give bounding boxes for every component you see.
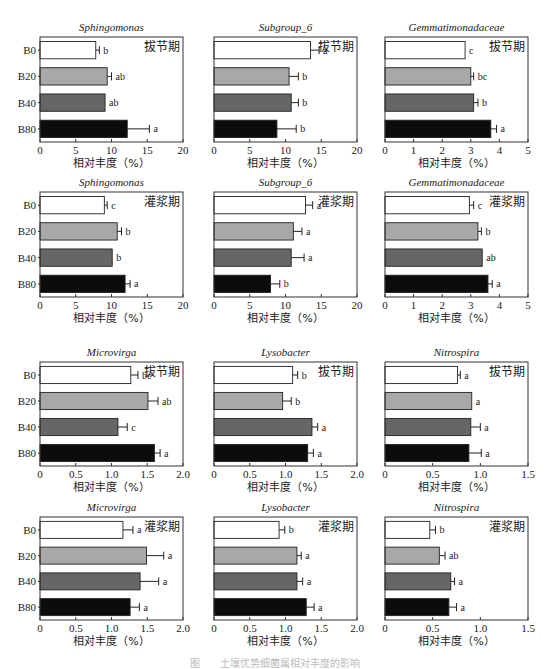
significance-letter: b [302,370,307,381]
category-label: B80 [18,278,37,290]
x-tick-label: 10 [106,144,118,156]
growth-stage-label: 灌浆期 [144,519,180,534]
bar-b20 [385,547,439,564]
bar-b40 [385,418,471,435]
growth-stage-label: 灌浆期 [489,519,525,534]
significance-letter: a [308,252,313,263]
panel-title: Microvirga [86,346,137,358]
panel-title: Nitrospira [433,346,480,358]
growth-stage-label: 拔节期 [489,364,525,379]
panel-title: Sphingomonas [79,176,144,188]
category-label: B40 [18,421,37,433]
panel-lysobacter-filling: Lysobacterbaaa灌浆期00.51.01.52.0相对丰度（%） [211,501,364,648]
significance-letter: a [464,370,469,381]
bar-b80 [214,444,308,461]
significance-letter: a [306,226,311,237]
x-tick-label: 0 [37,468,43,480]
significance-letter: a [476,396,481,407]
bar-b20 [40,392,148,409]
panel-sphingomonas-filling: SphingomonascB0bB20bB40aB80灌浆期05101520相对… [18,176,189,325]
significance-letter: a [318,602,323,613]
x-tick-label: 15 [316,299,328,311]
category-label: B20 [18,395,37,407]
bar-b20 [385,392,472,409]
bar-b20 [214,392,283,409]
significance-letter: a [168,550,173,561]
significance-letter: bc [478,71,488,82]
bar-b0 [214,41,311,58]
x-tick-label: 1.5 [314,468,328,480]
bar-b0 [214,196,306,213]
significance-letter: ab [116,71,125,82]
panel-title: Subgroup_6 [259,176,313,188]
bar-b80 [214,275,270,292]
bar-b80 [214,599,306,616]
bar-b0 [40,196,104,213]
bar-b40 [40,573,140,590]
significance-letter: a [307,576,312,587]
x-tick-label: 10 [280,144,292,156]
significance-letter: a [137,524,142,535]
category-label: B0 [23,44,36,56]
x-tick-label: 0.5 [426,622,440,634]
panel-title: Nitrospira [433,501,480,513]
growth-stage-label: 灌浆期 [489,194,525,209]
bar-b80 [385,599,449,616]
x-tick-label: 0.5 [426,468,440,480]
x-tick-label: 1.0 [105,622,119,634]
x-tick-label: 1.0 [279,468,293,480]
x-tick-label: 4 [497,144,503,156]
bar-b40 [385,573,451,590]
x-tick-label: 5 [73,299,79,311]
panel-gemmatimonadaceae-filling: Gemmatimonadaceaecbaba灌浆期012345相对丰度（%） [382,176,531,325]
x-tick-label: 4 [497,299,503,311]
x-tick-label: 20 [178,144,190,156]
bar-b0 [40,366,131,383]
x-tick-label: 5 [525,299,531,311]
significance-letter: c [478,200,483,211]
panel-title: Lysobacter [260,501,310,513]
figure-canvas: SphingomonasbB0abB20abB40aB80拔节期05101520… [0,0,550,669]
x-tick-label: 0.5 [243,622,257,634]
growth-stage-label: 灌浆期 [318,519,354,534]
x-tick-label: 5 [73,144,79,156]
panel-title: Microvirga [86,501,137,513]
x-tick-label: 1.5 [140,468,154,480]
bar-b20 [40,68,107,85]
x-tick-label: 0 [37,622,43,634]
bar-b0 [214,366,293,383]
significance-letter: b [103,45,108,56]
growth-stage-label: 拔节期 [144,364,180,379]
significance-letter: a [496,278,501,289]
x-tick-label: 1 [411,144,417,156]
x-tick-label: 20 [352,299,364,311]
significance-letter: b [289,524,294,535]
bar-b40 [385,94,474,111]
significance-letter: a [484,422,489,433]
x-tick-label: 1.5 [314,622,328,634]
bar-b0 [385,41,465,58]
panel-nitrospira-filling: Nitrospirababaa灌浆期00.51.01.5相对丰度（%） [382,501,535,648]
x-axis-label: 相对丰度（%） [247,156,323,170]
category-label: B20 [18,70,37,82]
bar-b20 [214,223,293,240]
x-tick-label: 0 [382,468,388,480]
bar-b80 [40,120,127,137]
category-label: B80 [18,447,37,459]
panel-lysobacter-jointing: Lysobacterbbaa拔节期00.51.01.52.0相对丰度（%） [211,346,364,494]
x-axis-label: 相对丰度（%） [418,634,494,648]
significance-letter: a [153,123,158,134]
panel-subgroup-6-jointing: Subgroup_6abbb拔节期05101520相对丰度（%） [211,21,363,170]
bar-b20 [385,223,478,240]
x-axis-label: 相对丰度（%） [247,634,323,648]
significance-letter: b [440,524,445,535]
bar-b40 [40,94,105,111]
growth-stage-label: 拔节期 [489,39,525,54]
x-axis-label: 相对丰度（%） [418,311,494,325]
x-tick-label: 0 [382,299,388,311]
significance-letter: a [461,602,466,613]
x-tick-label: 1 [411,299,417,311]
bar-b40 [214,418,312,435]
panel-subgroup-6-filling: Subgroup_6aaab灌浆期05101520相对丰度（%） [211,176,363,325]
x-tick-label: 0.5 [243,468,257,480]
